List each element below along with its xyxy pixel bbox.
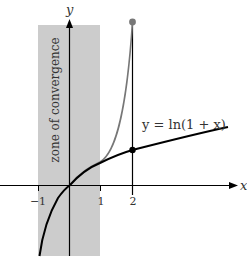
approximation-value-marker bbox=[129, 19, 136, 26]
tick-label-1: 1 bbox=[98, 195, 105, 208]
tick-label-2: 2 bbox=[130, 195, 137, 208]
chart-svg: zone of convergence x y −1 1 2 y = ln(1 … bbox=[0, 0, 247, 267]
x-axis-arrow-icon bbox=[229, 182, 238, 189]
ln-value-marker bbox=[129, 147, 135, 153]
chart-container: zone of convergence x y −1 1 2 y = ln(1 … bbox=[0, 0, 247, 267]
x-axis-label: x bbox=[240, 178, 247, 193]
zone-of-convergence-label: zone of convergence bbox=[48, 37, 62, 162]
y-axis-arrow-icon bbox=[66, 19, 73, 28]
tick-label-neg1: −1 bbox=[30, 195, 46, 208]
function-label: y = ln(1 + x) bbox=[141, 117, 226, 132]
y-axis-label: y bbox=[65, 2, 74, 17]
